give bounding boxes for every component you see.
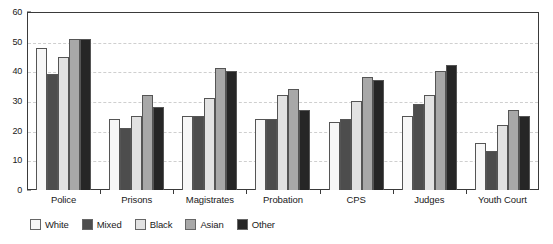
gridline (28, 132, 538, 133)
y-axis-tick-label: 50 (12, 37, 22, 46)
x-axis-category-label: Police (27, 194, 100, 206)
y-axis-tick-label: 0 (17, 186, 22, 195)
legend-swatch-icon (185, 219, 196, 230)
y-axis-tick-label: 40 (12, 67, 22, 76)
gridline (28, 43, 538, 44)
grouped-bar-chart: 0102030405060 PolicePrisonsMagistratesPr… (0, 0, 553, 244)
legend-item[interactable]: White (30, 219, 69, 230)
legend-item[interactable]: Mixed (82, 219, 122, 230)
x-axis-category-label: Magistrates (173, 194, 246, 206)
x-axis-category-label: Prisons (100, 194, 173, 206)
x-axis-category-label: CPS (320, 194, 393, 206)
legend-item[interactable]: Other (237, 219, 275, 230)
legend: WhiteMixedBlackAsianOther (30, 219, 283, 230)
legend-label: Black (150, 219, 173, 230)
x-axis-category-label: Youth Court (466, 194, 539, 206)
legend-swatch-icon (30, 219, 41, 230)
legend-label: Other (252, 219, 275, 230)
plot-area (27, 12, 539, 190)
y-axis-tick-label: 20 (12, 126, 22, 135)
x-axis-category-label: Probation (246, 194, 319, 206)
x-axis-labels: PolicePrisonsMagistratesProbationCPSJudg… (27, 194, 539, 206)
y-axis-tick-label: 60 (12, 8, 22, 17)
y-axis: 0102030405060 (0, 12, 27, 190)
legend-item[interactable]: Black (135, 219, 173, 230)
y-axis-tick-label: 30 (12, 97, 22, 106)
gridline (28, 161, 538, 162)
gridlines (28, 13, 538, 189)
legend-swatch-icon (237, 219, 248, 230)
legend-item[interactable]: Asian (185, 219, 223, 230)
legend-swatch-icon (82, 219, 93, 230)
y-axis-tick-label: 10 (12, 156, 22, 165)
legend-label: Mixed (97, 219, 122, 230)
legend-label: Asian (200, 219, 223, 230)
x-axis-category-label: Judges (393, 194, 466, 206)
gridline (28, 72, 538, 73)
legend-label: White (45, 219, 69, 230)
gridline (28, 102, 538, 103)
legend-swatch-icon (135, 219, 146, 230)
